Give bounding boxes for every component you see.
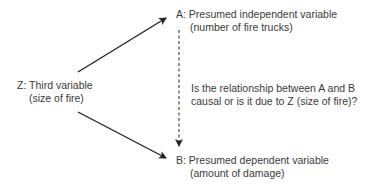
- node-a-label: A: Presumed independent variable: [176, 8, 337, 21]
- node-b-label: B: Presumed dependent variable: [176, 154, 329, 167]
- arrow-z-to-a: [78, 18, 166, 72]
- arrow-z-to-b: [78, 112, 166, 158]
- node-z-label: Z: Third variable: [17, 79, 93, 92]
- node-a-sublabel: (number of fire trucks): [190, 21, 293, 34]
- node-z-sublabel: (size of fire): [29, 92, 84, 105]
- question-line-1: Is the relationship between A and B: [191, 82, 355, 95]
- question-line-2: causal or is it due to Z (size of fire)?: [191, 95, 357, 108]
- node-b-sublabel: (amount of damage): [190, 167, 285, 180]
